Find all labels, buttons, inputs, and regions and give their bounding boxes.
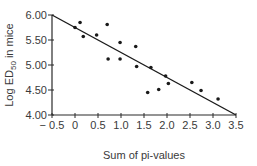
data-point [78,21,82,25]
data-point [135,65,139,69]
y-tick-label: 4.00 [26,109,47,121]
y-axis-label-pre: Log ED [3,70,15,107]
data-point [164,74,168,78]
x-tick-label: 0.5 [90,119,105,131]
data-point [118,57,122,61]
data-points [73,21,220,101]
data-point [199,89,203,93]
data-point [95,33,99,37]
x-axis-label: Sum of pi-values [103,149,185,161]
data-point [118,41,122,45]
regression-line-path [52,15,236,115]
data-point [81,35,85,39]
data-point [73,26,77,30]
x-tick-label: 2.5 [182,119,197,131]
data-point [134,45,138,49]
data-point [167,82,171,86]
x-tick-label: 2.0 [159,119,174,131]
x-tick-label: 1.5 [136,119,151,131]
y-tick-label: 5.00 [26,59,47,71]
y-tick-label: 4.50 [26,84,47,96]
regression-line [52,15,236,115]
data-point [105,23,109,27]
y-tick-label: 5.50 [26,34,47,46]
x-axis-ticks: − 0.500.51.01.52.02.53.03.5 [40,113,244,131]
data-point [157,88,161,92]
data-point [106,57,110,61]
y-axis-label: Log ED50 in mice [3,23,18,107]
x-tick-label: 3.0 [205,119,220,131]
data-point [149,66,153,70]
x-tick-label: 1.0 [113,119,128,131]
y-axis-ticks: 4.004.505.005.506.00 [26,9,54,121]
y-axis-label-post: in mice [3,23,15,61]
x-tick-label: 3.5 [228,119,243,131]
data-point [216,97,220,101]
x-tick-label: 0 [72,119,78,131]
y-tick-label: 6.00 [26,9,47,21]
scatter-chart: − 0.500.51.01.52.02.53.03.5 4.004.505.00… [0,0,257,166]
data-point [190,81,194,85]
data-point [146,91,150,95]
